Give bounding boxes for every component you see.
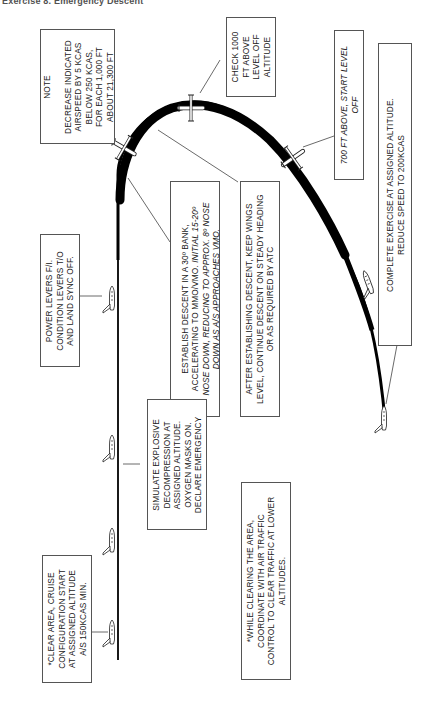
while-clearing-box: *WHILE CLEARING THE AREA, COORDINATE WIT… bbox=[241, 482, 291, 680]
simulate-decompression-box: SIMULATE EXPLOSIVE DECOMPRESSION AT ASSI… bbox=[147, 399, 207, 530]
aircraft-icon bbox=[375, 406, 387, 433]
aircraft-icon bbox=[103, 528, 115, 555]
leader-700 bbox=[303, 136, 334, 147]
complete-exercise-box: COMPLETE EXERCISE AT ASSIGNED ALTITUDE. … bbox=[378, 43, 412, 346]
note-box: NOTE DECREASE INDICATED AIRSPEED BY 5 KC… bbox=[40, 29, 115, 144]
clear-area-box: *CLEAR AREA, CRUISE CONFIGURATION START … bbox=[42, 555, 92, 683]
700ft-box: 700 FT ABOVE, START LEVEL OFF bbox=[334, 30, 364, 180]
power-levers-text: POWER LEVERS F/I. CONDITION LEVERS T/O A… bbox=[44, 236, 76, 366]
complete-exercise-text: COMPLETE EXERCISE AT ASSIGNED ALTITUDE. … bbox=[385, 45, 406, 345]
power-levers-box: POWER LEVERS F/I. CONDITION LEVERS T/O A… bbox=[40, 234, 80, 367]
leader-after bbox=[158, 130, 238, 182]
aircraft-icon bbox=[103, 435, 115, 462]
establish-descent-box: ESTABLISH DESCENT IN A 30º BANK, ACCELER… bbox=[170, 181, 220, 417]
note-body: DECREASE INDICATED AIRSPEED BY 5 KCAS BE… bbox=[62, 32, 115, 142]
aircraft-icon-top bbox=[179, 95, 203, 121]
simulate-decompression-text: SIMULATE EXPLOSIVE DECOMPRESSION AT ASSI… bbox=[151, 401, 204, 529]
aircraft-icon bbox=[103, 286, 115, 313]
leader-establish bbox=[128, 178, 170, 242]
after-establishing-text: AFTER ESTABLISHING DESCENT, KEEP WINGS L… bbox=[244, 183, 276, 415]
700ft-text: 700 FT ABOVE, START LEVEL OFF bbox=[339, 31, 360, 179]
note-title: NOTE bbox=[41, 32, 52, 142]
clear-area-text: *CLEAR AREA, CRUISE CONFIGURATION START … bbox=[46, 557, 88, 682]
leader-check bbox=[200, 60, 220, 93]
aircraft-icon bbox=[103, 620, 115, 647]
check-1000-text: CHECK 1000 FT ABOVE LEVEL OFF ALTITUDE bbox=[230, 18, 272, 96]
while-clearing-text: *WHILE CLEARING THE AREA, COORDINATE WIT… bbox=[245, 484, 287, 679]
leader-complete bbox=[386, 345, 397, 404]
after-establishing-box: AFTER ESTABLISHING DESCENT, KEEP WINGS L… bbox=[240, 181, 280, 417]
check-1000-box: CHECK 1000 FT ABOVE LEVEL OFF ALTITUDE bbox=[226, 17, 276, 97]
